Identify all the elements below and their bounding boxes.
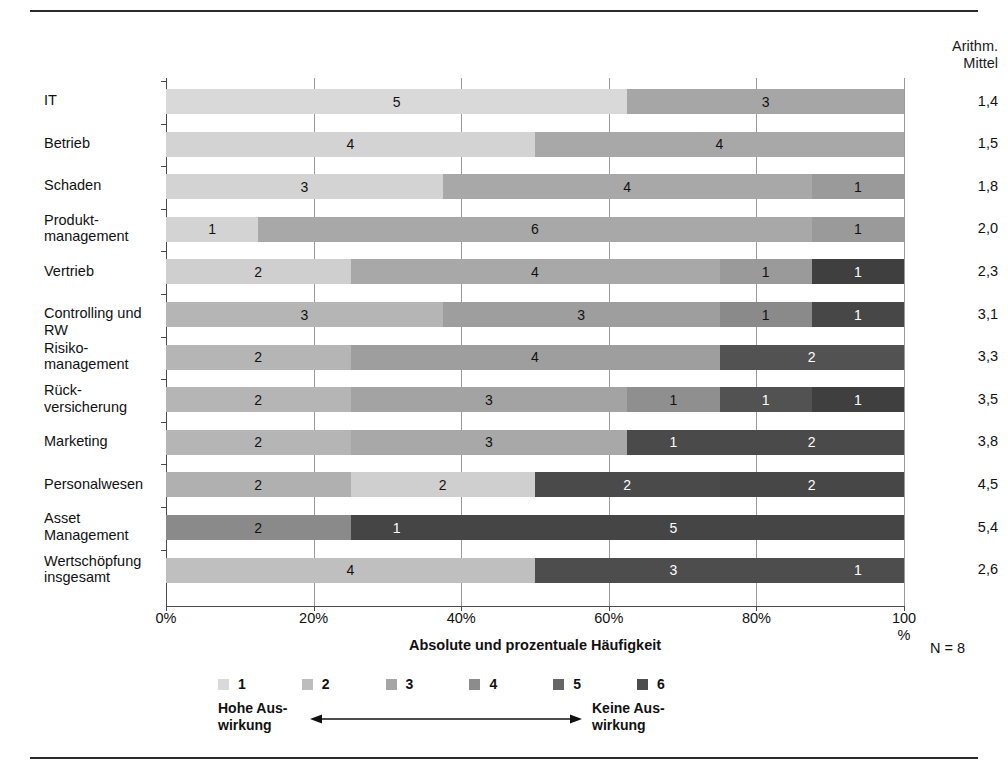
bar-segment-label: 3 [300,180,308,194]
mean-value: 1,4 [908,93,1004,109]
bar-segment[interactable]: 4 [535,132,904,157]
x-axis-tick-label-last-line1: 100 [881,610,927,627]
bar-segment[interactable]: 2 [166,345,351,370]
mean-column-header-line2: Mittel [908,55,998,72]
legend-item[interactable]: 4 [469,676,497,692]
bar-segment[interactable]: 3 [535,558,812,583]
bar-segment[interactable]: 3 [351,430,628,455]
mean-value: 1,5 [908,135,1004,151]
bar-row[interactable]: 161 [166,217,904,242]
y-axis-tick [161,507,166,508]
mean-column-header-line1: Arithm. [908,38,998,55]
bar-segment[interactable]: 1 [627,387,719,412]
bar-segment[interactable]: 5 [166,89,627,114]
bar-segment[interactable]: 1 [627,430,719,455]
mean-value: 3,8 [908,433,1004,449]
bottom-divider [30,757,978,759]
legend-swatch-icon [302,679,313,690]
bar-segment-label: 2 [808,350,816,364]
bar-segment-label: 2 [254,350,262,364]
x-axis-line [166,606,904,607]
y-axis-tick [161,550,166,551]
bar-segment[interactable]: 1 [812,302,904,327]
bar-segment-label: 1 [854,563,862,577]
mean-value: 2,6 [908,561,1004,577]
bar-row[interactable]: 2411 [166,259,904,284]
bar-segment[interactable]: 4 [351,259,720,284]
bar-segment[interactable]: 1 [812,259,904,284]
bar-segment[interactable]: 1 [812,174,904,199]
bar-segment[interactable]: 4 [443,174,812,199]
bar-segment[interactable]: 4 [166,132,535,157]
y-axis-tick [161,464,166,465]
legend-label: 3 [406,676,414,692]
bar-segment-label: 1 [762,308,770,322]
legend-item[interactable]: 2 [302,676,330,692]
legend-swatch-icon [386,679,397,690]
bar-row[interactable]: 53 [166,89,904,114]
bar-segment[interactable]: 2 [720,430,905,455]
y-axis-tick [161,294,166,295]
bar-segment[interactable]: 2 [720,345,905,370]
bar-segment[interactable]: 3 [351,387,628,412]
bar-segment[interactable]: 3 [627,89,904,114]
mean-value: 1,8 [908,178,1004,194]
y-axis-tick [161,166,166,167]
legend-swatch-icon [469,679,480,690]
bar-segment[interactable]: 2 [166,515,351,540]
bar-row[interactable]: 3311 [166,302,904,327]
bar-segment[interactable]: 2 [166,387,351,412]
bar-segment[interactable]: 4 [166,558,535,583]
bar-segment[interactable]: 1 [351,515,443,540]
bar-segment-label: 1 [669,435,677,449]
bar-row[interactable]: 2312 [166,430,904,455]
x-axis-tick-label: 20% [299,610,328,626]
category-label: Asset Management [44,510,162,543]
bar-segment-label: 4 [531,265,539,279]
legend-item[interactable]: 6 [637,676,665,692]
bar-row[interactable]: 242 [166,345,904,370]
bar-segment[interactable]: 1 [720,259,812,284]
legend-item[interactable]: 5 [553,676,581,692]
bar-segment-label: 1 [854,308,862,322]
bar-segment[interactable]: 3 [166,174,443,199]
legend: 123456 [218,676,721,692]
bar-row[interactable]: 341 [166,174,904,199]
legend-label: 4 [489,676,497,692]
bar-segment[interactable]: 1 [812,387,904,412]
legend-item[interactable]: 3 [386,676,414,692]
y-axis-tick [161,251,166,252]
bar-row[interactable]: 44 [166,132,904,157]
bar-segment-label: 5 [393,95,401,109]
bar-segment[interactable]: 4 [351,345,720,370]
bar-segment-label: 1 [854,180,862,194]
bar-row[interactable]: 23111 [166,387,904,412]
bar-segment[interactable]: 3 [166,302,443,327]
bar-segment[interactable]: 6 [258,217,812,242]
bar-segment[interactable]: 1 [166,217,258,242]
legend-swatch-icon [218,679,229,690]
bar-segment[interactable]: 5 [443,515,904,540]
bar-row[interactable]: 2222 [166,472,904,497]
category-label: Wertschöpfung insgesamt [44,553,162,586]
bar-segment-label: 3 [577,308,585,322]
bar-segment[interactable]: 2 [166,430,351,455]
bar-segment[interactable]: 2 [535,472,720,497]
legend-swatch-icon [553,679,564,690]
bar-row[interactable]: 215 [166,515,904,540]
bar-segment-label: 2 [254,435,262,449]
bar-segment[interactable]: 2 [166,472,351,497]
bar-segment[interactable]: 1 [812,558,904,583]
category-label: Betrieb [44,135,162,152]
bar-segment-label: 1 [669,393,677,407]
legend-item[interactable]: 1 [218,676,246,692]
bar-segment[interactable]: 2 [351,472,536,497]
bar-segment-label: 1 [393,521,401,535]
bar-segment[interactable]: 2 [166,259,351,284]
bar-segment[interactable]: 1 [812,217,904,242]
bar-row[interactable]: 431 [166,558,904,583]
bar-segment[interactable]: 1 [720,387,812,412]
bar-segment[interactable]: 2 [720,472,905,497]
bar-segment[interactable]: 3 [443,302,720,327]
bar-segment[interactable]: 1 [720,302,812,327]
